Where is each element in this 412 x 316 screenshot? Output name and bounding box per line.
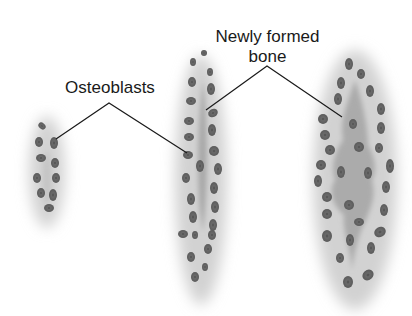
newly-formed-bone-label-line2: bone	[200, 47, 335, 67]
osteoblasts-label: Osteoblasts	[55, 78, 165, 98]
newly-formed-bone-label-line1: Newly formed	[200, 27, 335, 47]
osteoblasts-leader	[56, 103, 187, 153]
